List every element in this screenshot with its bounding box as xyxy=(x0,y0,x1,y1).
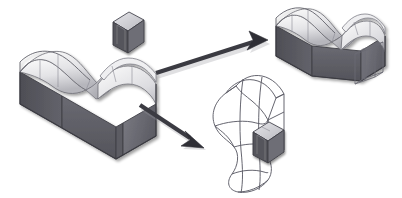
tool-box[interactable] xyxy=(113,12,144,53)
arrow-to-shaded-result xyxy=(156,31,270,76)
arrow-to-shaded-result-shaft xyxy=(156,42,253,73)
result-wireframe-tool-box[interactable] xyxy=(253,122,284,163)
result-block-front-face xyxy=(312,46,361,81)
wireframe-upper-right-face xyxy=(268,94,284,120)
wireframe-top-opening xyxy=(226,80,276,98)
wireframe-rule-v1 xyxy=(240,79,243,193)
wireframe-band-1 xyxy=(215,120,268,126)
diagram-svg xyxy=(0,0,402,198)
wireframe-band-3 xyxy=(232,170,268,174)
source-wavy-block[interactable] xyxy=(20,51,156,159)
diagram-canvas xyxy=(0,0,402,198)
result-shaded-block[interactable] xyxy=(276,8,385,81)
